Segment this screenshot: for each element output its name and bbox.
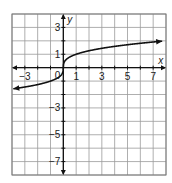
y-tick-label: 3 bbox=[55, 22, 61, 33]
x-tick-label: −3 bbox=[19, 71, 31, 82]
y-axis-down-arrow-icon bbox=[61, 170, 66, 175]
x-tick-label: 3 bbox=[99, 71, 105, 82]
x-axis-left-arrow-icon bbox=[12, 65, 17, 70]
x-tick-label: 5 bbox=[125, 71, 131, 82]
x-axis-label: x bbox=[157, 55, 164, 66]
y-tick-label: −3 bbox=[49, 102, 61, 113]
cube-root-curve bbox=[13, 41, 162, 89]
y-tick-label: −7 bbox=[49, 156, 61, 167]
origin-label: 0 bbox=[55, 70, 61, 81]
curve-right-arrow-icon bbox=[156, 39, 162, 45]
y-axis-label: y bbox=[66, 14, 73, 25]
x-axis-right-arrow-icon bbox=[161, 65, 166, 70]
x-tick-label: 1 bbox=[73, 71, 79, 82]
y-axis-up-arrow-icon bbox=[61, 14, 66, 19]
cube-root-graph: −3135731−3−5−7 x y 0 bbox=[0, 0, 172, 183]
y-tick-label: 1 bbox=[55, 49, 61, 60]
grid-lines bbox=[12, 14, 166, 175]
y-tick-label: −5 bbox=[49, 129, 61, 140]
x-tick-label: 7 bbox=[150, 71, 156, 82]
function-curve bbox=[13, 39, 162, 91]
